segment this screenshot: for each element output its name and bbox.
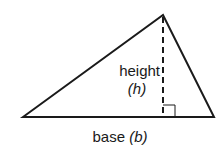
height-label: height bbox=[105, 63, 160, 78]
base-label: base (b) bbox=[82, 129, 158, 144]
triangle-diagram: height (h) base (b) bbox=[0, 0, 217, 151]
right-angle-marker bbox=[163, 105, 175, 117]
base-word: base bbox=[92, 128, 125, 145]
base-symbol: (b) bbox=[129, 128, 147, 145]
height-symbol-label: (h) bbox=[122, 81, 152, 96]
